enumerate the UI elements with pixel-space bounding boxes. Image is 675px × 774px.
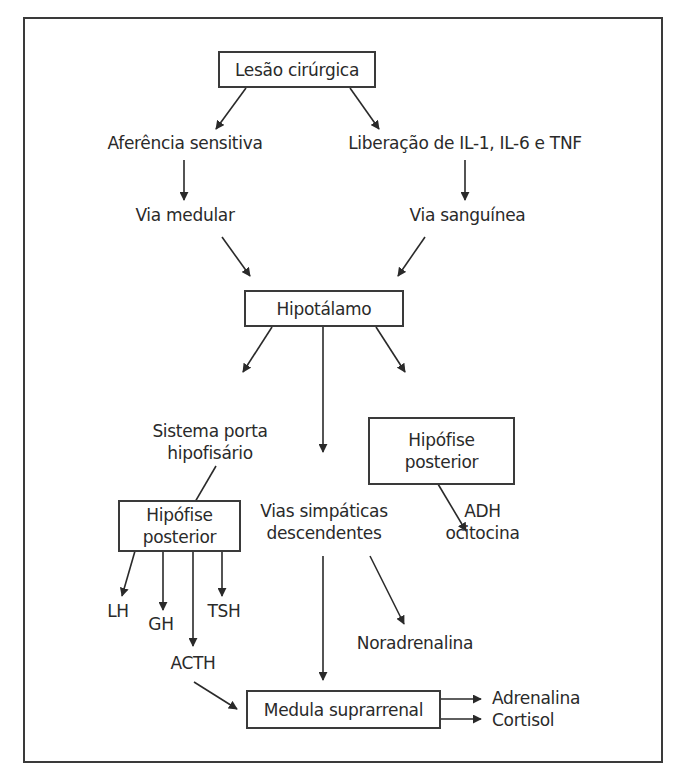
node-label: Aferência sensitiva — [107, 133, 262, 153]
node-label: Adrenalina — [492, 688, 580, 708]
node-hipofise-posterior-left: Hipófise posterior — [118, 500, 241, 552]
node-acth: ACTH — [165, 652, 221, 674]
node-label-line1: Sistema porta — [145, 420, 275, 442]
node-tsh: TSH — [203, 600, 245, 622]
node-medula-suprarrenal: Medula suprarrenal — [246, 690, 441, 729]
node-label: LH — [107, 601, 129, 621]
arrow-lesao-aferencia — [216, 88, 246, 129]
node-label: Liberação de IL-1, IL-6 e TNF — [348, 133, 582, 153]
arrow-via-sanguinea-hipotalamo — [398, 237, 425, 276]
node-adrenalina: Adrenalina — [492, 687, 580, 709]
node-via-medular: Via medular — [110, 204, 260, 226]
node-liberacao-citocinas: Liberação de IL-1, IL-6 e TNF — [335, 132, 595, 154]
node-label-line1: Vias simpáticas — [250, 500, 398, 522]
node-label-line2: posterior — [143, 526, 217, 548]
node-label: Lesão cirúrgica — [235, 59, 359, 81]
node-label-line2: posterior — [405, 451, 479, 473]
node-label-line1: Hipófise — [146, 504, 212, 526]
node-label-line1: ADH — [430, 500, 535, 522]
node-via-sanguinea: Via sanguínea — [395, 204, 540, 226]
arrow-hipotalamo-sistema-porta — [243, 327, 272, 372]
arrow-acth-medula — [194, 682, 237, 709]
arrows-layer — [0, 0, 675, 774]
node-label-line2: descendentes — [250, 522, 398, 544]
arrow-hipotalamo-hipofise-posterior — [376, 327, 405, 372]
node-label: GH — [148, 614, 173, 634]
arrow-via-medular-hipotalamo — [222, 237, 250, 276]
node-label: Cortisol — [492, 710, 554, 730]
node-cortisol: Cortisol — [492, 709, 554, 731]
node-noradrenalina: Noradrenalina — [350, 632, 480, 654]
arrow-hipofise-left-lh — [122, 551, 135, 596]
node-label-line1: Hipófise — [408, 429, 474, 451]
node-hipofise-posterior-right: Hipófise posterior — [368, 417, 515, 485]
node-label: Noradrenalina — [357, 633, 473, 653]
node-lesao-cirurgica: Lesão cirúrgica — [218, 51, 376, 88]
node-lh: LH — [100, 600, 136, 622]
node-label: TSH — [207, 601, 240, 621]
node-label: Hipotálamo — [277, 298, 372, 320]
node-gh: GH — [143, 613, 179, 635]
arrow-lesao-liberacao — [350, 88, 379, 129]
node-aferencia-sensitiva: Aferência sensitiva — [90, 132, 280, 154]
node-label: ACTH — [170, 653, 215, 673]
node-sistema-porta-hipofisario: Sistema porta hipofisário — [145, 420, 275, 464]
node-adh-ocitocina: ADH ocitocina — [430, 500, 535, 544]
node-vias-simpaticas-descendentes: Vias simpáticas descendentes — [250, 500, 398, 544]
node-label: Via medular — [135, 205, 234, 225]
node-label: Medula suprarrenal — [264, 699, 423, 721]
node-label-line2: ocitocina — [430, 522, 535, 544]
arrow-vias-noradrenalina — [370, 556, 404, 624]
node-label: Via sanguínea — [410, 205, 526, 225]
node-hipotalamo: Hipotálamo — [244, 290, 404, 327]
node-label-line2: hipofisário — [145, 442, 275, 464]
